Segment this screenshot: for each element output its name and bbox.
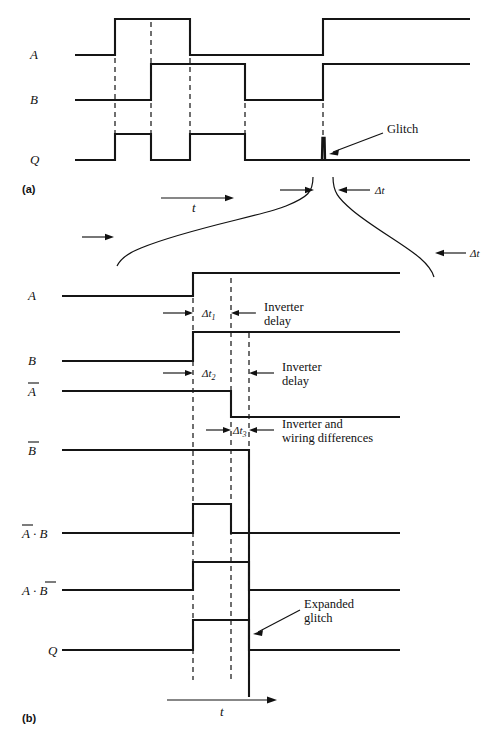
panel-b-tag: (b) — [22, 712, 36, 724]
expanded-glitch-arrowhead — [253, 630, 263, 636]
time-axis-b-arrowhead — [267, 697, 277, 704]
signal-label-b-A-bar: A — [27, 384, 36, 399]
delta-t-lower-left-arrowhead — [105, 234, 114, 240]
time-axis-b-label: t — [220, 704, 224, 719]
delta-t-upper-right-arrowhead — [338, 187, 347, 193]
waveform-b-signal-A — [62, 273, 400, 296]
signal-label-b-A: A — [27, 288, 36, 303]
time-axis-a-label: t — [192, 200, 196, 215]
inverter-delay-1-line2: delay — [264, 314, 292, 328]
signal-label-a-A: A — [29, 47, 38, 62]
signal-label-b-Abar-and-B: A · B — [21, 526, 47, 541]
inverter-wiring-line2: wiring differences — [282, 431, 373, 445]
delta-t3-label: Δt3 — [232, 424, 247, 439]
inverter-delay-2-line2: delay — [282, 374, 310, 388]
waveform-a-signal-Q — [75, 134, 470, 160]
delta-t3-right-arrowhead — [249, 427, 257, 433]
time-axis-a-arrowhead — [225, 195, 234, 201]
panel-a-tag: (a) — [22, 183, 36, 195]
panel-b: A B A B A · B A · B Q Δt1 Inverter delay — [21, 273, 400, 724]
signal-label-b-B: B — [28, 353, 36, 368]
signal-label-b-A-and-Bbar: A · B — [21, 583, 47, 598]
signal-label-b-B-bar: B — [28, 443, 36, 458]
delta-t1-right-arrowhead — [231, 310, 239, 316]
delta-t-lower-right-arrowhead — [435, 250, 444, 256]
signal-label-a-Q: Q — [30, 152, 40, 167]
inverter-delay-1-line1: Inverter — [264, 300, 304, 314]
delta-t-upper-right-label: Δt — [374, 184, 385, 196]
timing-diagram-figure: A B Q Glitch (a) t Δt Δt — [0, 0, 495, 735]
glitch-callout-leader — [333, 133, 383, 152]
expansion-callout-group: Δt Δt — [82, 177, 480, 277]
inverter-delay-2-line1: Inverter — [282, 360, 322, 374]
expanded-glitch-line1: Expanded — [304, 597, 355, 611]
inverter-wiring-line1: Inverter and — [282, 417, 343, 431]
signal-label-a-B: B — [30, 92, 38, 107]
measure-delta-t1: Δt1 Inverter delay — [163, 300, 304, 328]
waveform-b-signal-B-bar-real — [62, 450, 249, 697]
measure-delta-t2: Δt2 Inverter delay — [163, 360, 322, 388]
delta-t1-left-arrowhead — [185, 310, 193, 316]
delta-t2-label: Δt2 — [201, 367, 216, 382]
glitch-callout-arrowhead — [329, 150, 339, 156]
panel-a: A B Q Glitch (a) t — [22, 19, 470, 215]
expanded-glitch-line2: glitch — [304, 611, 333, 625]
expanded-glitch-leader — [258, 610, 300, 632]
waveform-a-signal-A — [75, 19, 470, 55]
delta-t2-right-arrowhead — [249, 370, 257, 376]
glitch-callout-label: Glitch — [387, 122, 419, 136]
signal-label-b-Q: Q — [48, 643, 58, 658]
waveform-b-signal-Abar-and-B — [62, 504, 400, 533]
delta-t-lower-right-label: Δt — [469, 247, 480, 259]
expanded-glitch-callout: Expanded glitch — [253, 597, 355, 636]
delta-t3-left-arrowhead — [223, 427, 231, 433]
delta-t2-left-arrowhead — [185, 370, 193, 376]
waveform-a-signal-B — [75, 64, 470, 100]
waveform-a-glitch-spike — [322, 138, 325, 160]
delta-t1-label: Δt1 — [201, 307, 216, 322]
